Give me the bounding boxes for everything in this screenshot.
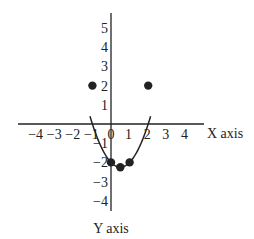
y-tick-label: 5 — [101, 21, 108, 36]
data-point — [116, 163, 124, 171]
y-tick-label: 2 — [101, 79, 108, 94]
y-tick-label: −2 — [93, 155, 108, 170]
x-tick-label: 3 — [162, 127, 169, 142]
parabola-chart: −4−3−2−101234 54321−1−2−3−4 X axis Y axi… — [0, 0, 254, 239]
x-axis-label: X axis — [207, 126, 243, 141]
y-tick-label: 3 — [101, 59, 108, 74]
data-point — [88, 81, 96, 89]
x-tick-label: −4 — [28, 127, 43, 142]
y-tick-labels: 54321−1−2−3−4 — [93, 21, 108, 209]
x-tick-label: −3 — [47, 127, 62, 142]
x-tick-label: 1 — [125, 127, 132, 142]
y-axis-label: Y axis — [93, 221, 129, 236]
data-point — [125, 158, 133, 166]
data-point — [144, 81, 152, 89]
x-tick-label: 4 — [181, 127, 188, 142]
x-tick-label: 0 — [108, 127, 115, 142]
y-tick-label: 4 — [101, 40, 108, 55]
x-tick-labels: −4−3−2−101234 — [28, 127, 188, 142]
y-tick-label: −1 — [93, 136, 108, 151]
y-tick-label: 1 — [101, 98, 108, 113]
y-tick-label: −3 — [93, 175, 108, 190]
data-point — [107, 158, 115, 166]
y-tick-label: −4 — [93, 194, 108, 209]
x-tick-label: −2 — [65, 127, 80, 142]
axes — [18, 13, 204, 211]
